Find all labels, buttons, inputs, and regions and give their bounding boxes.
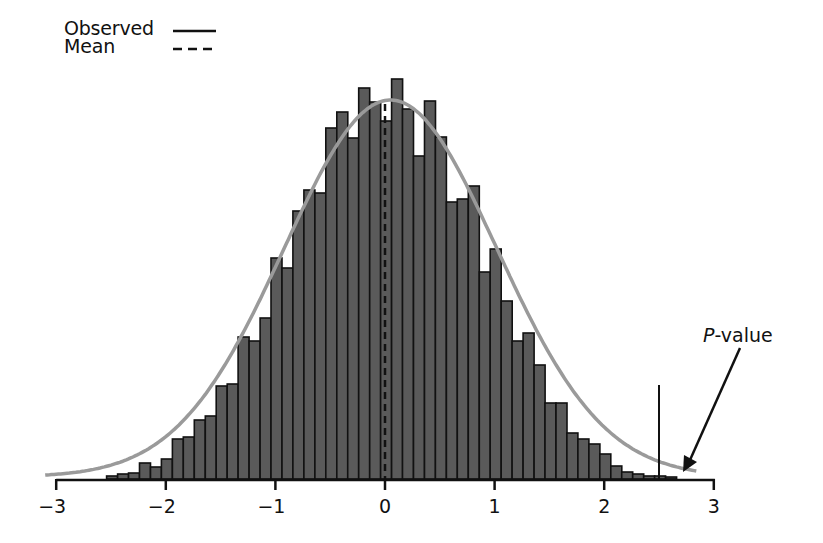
histogram-bar <box>633 474 644 479</box>
histogram-bar <box>479 272 490 479</box>
histogram-bar <box>468 186 479 479</box>
histogram-bar <box>282 268 293 479</box>
histogram-bar <box>435 137 446 479</box>
histogram-bar <box>238 337 249 479</box>
histogram-bar <box>414 156 425 479</box>
histogram-bar <box>512 341 523 479</box>
histogram-bar <box>249 341 260 479</box>
histogram-bar <box>578 439 589 479</box>
x-tick-label: 3 <box>708 495 720 517</box>
histogram-bar <box>227 384 238 479</box>
p-letter: P <box>703 324 714 346</box>
x-tick-label: 2 <box>598 495 610 517</box>
histogram-bar <box>457 199 468 479</box>
histogram-bar <box>304 190 315 479</box>
histogram-bar <box>370 102 381 479</box>
x-tick-label: −1 <box>257 495 285 517</box>
histogram-bar <box>216 386 227 479</box>
x-tick-label: 0 <box>379 495 391 517</box>
histogram-bar <box>403 109 414 479</box>
histogram-bar <box>183 437 194 479</box>
histogram-bars <box>107 79 677 479</box>
histogram-bar <box>523 333 534 479</box>
histogram-bar <box>293 211 304 479</box>
histogram-bar <box>600 454 611 479</box>
histogram-bar <box>425 101 436 479</box>
x-tick-label: −2 <box>148 495 176 517</box>
histogram-bar <box>337 112 348 479</box>
histogram-bar <box>666 477 677 479</box>
histogram-bar <box>490 249 501 479</box>
histogram-bar <box>556 403 567 479</box>
histogram-bar <box>392 79 403 479</box>
x-tick-label: 1 <box>489 495 501 517</box>
histogram-bar <box>534 365 545 479</box>
histogram-bar <box>140 463 151 479</box>
histogram-bar <box>326 128 337 479</box>
histogram-bar <box>271 258 282 479</box>
p-value-arrow <box>690 348 740 460</box>
histogram-bar <box>260 318 271 479</box>
histogram-bar <box>194 420 205 479</box>
x-axis-ticks: −3−2−10123 <box>38 479 720 517</box>
histogram-bar <box>359 88 370 479</box>
histogram-bar <box>655 476 666 479</box>
p-value-annotation: P-value <box>703 326 773 345</box>
histogram-bar <box>172 439 183 479</box>
histogram-bar <box>501 301 512 479</box>
histogram-bar <box>644 476 655 479</box>
histogram-bar <box>118 474 129 479</box>
histogram-bar <box>567 433 578 479</box>
histogram-bar <box>151 467 162 479</box>
histogram-bar <box>589 444 600 479</box>
histogram-bar <box>348 138 359 479</box>
histogram-bar <box>315 193 326 479</box>
x-tick-label: −3 <box>38 495 66 517</box>
histogram-bar <box>129 473 140 479</box>
histogram-bar <box>107 476 118 479</box>
histogram-bar <box>205 416 216 479</box>
histogram-bar <box>611 466 622 479</box>
legend-mean-label: Mean <box>64 37 115 56</box>
histogram-chart: −3−2−10123 <box>0 0 823 543</box>
histogram-bar <box>622 472 633 479</box>
histogram-bar <box>161 459 172 479</box>
p-suffix: -value <box>714 324 772 346</box>
histogram-bar <box>545 403 556 479</box>
histogram-bar <box>446 202 457 479</box>
